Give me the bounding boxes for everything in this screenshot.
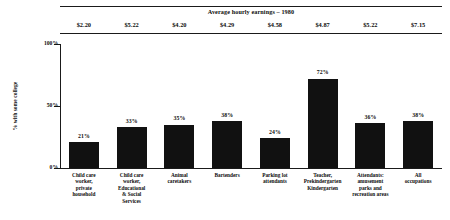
category-label-line: recreation areas <box>348 191 394 197</box>
category-label-line: household <box>61 191 107 197</box>
earnings-value: $5.22 <box>347 19 395 31</box>
category-label: Child careworker,Educational& SocialServ… <box>108 172 156 218</box>
category-label: Teacher,PrekindergartenKindergarten <box>299 172 347 218</box>
category-label-line: occupations <box>395 178 441 184</box>
category-label: Alloccupations <box>394 172 442 218</box>
category-label: Parking lotattendants <box>251 172 299 218</box>
bar-value-label: 33% <box>126 119 138 125</box>
category-label: Attendants:amusementparks andrecreation … <box>347 172 395 218</box>
category-label: Child careworker,privatehousehold <box>60 172 108 218</box>
earnings-value: $4.20 <box>156 19 204 31</box>
bar-slot: 36% <box>347 44 395 168</box>
bar <box>355 123 385 168</box>
bar <box>260 138 290 168</box>
bar-value-label: 35% <box>174 116 186 122</box>
earnings-value: $5.22 <box>108 19 156 31</box>
earnings-value: $2.20 <box>60 19 108 31</box>
category-label-line: caretakers <box>157 178 203 184</box>
bar-value-label: 21% <box>78 134 90 140</box>
plot-area: 100%50%0% % with some college 21%33%35%3… <box>60 44 442 168</box>
bar <box>403 121 433 168</box>
bar <box>117 127 147 168</box>
x-axis-category-labels: Child careworker,privatehouseholdChild c… <box>60 172 442 218</box>
earnings-header-title: Average hourly earnings – 1980 <box>60 8 442 15</box>
bar <box>308 79 338 168</box>
category-label-line: Prekindergarten <box>300 178 346 184</box>
bar-slot: 21% <box>60 44 108 168</box>
bar-value-label: 72% <box>317 70 329 76</box>
category-label-line: attendants <box>252 178 298 184</box>
earnings-value-row: $2.20$5.22$4.20$4.29$4.58$4.87$5.22$7.15 <box>60 19 442 31</box>
earnings-value: $4.58 <box>251 19 299 31</box>
earnings-header-band: Average hourly earnings – 1980 $2.20$5.2… <box>60 6 442 34</box>
earnings-value: $4.29 <box>203 19 251 31</box>
bar-slot: 35% <box>156 44 204 168</box>
bar-slot: 38% <box>394 44 442 168</box>
bar-value-label: 38% <box>412 113 424 119</box>
category-label: Animalcaretakers <box>156 172 204 218</box>
y-axis-tick-label: 100% <box>44 41 58 47</box>
chart-page: Average hourly earnings – 1980 $2.20$5.2… <box>0 0 450 220</box>
y-axis-tick-label: 50% <box>47 103 58 109</box>
category-label-line: Kindergarten <box>300 185 346 191</box>
bar-value-label: 36% <box>365 115 377 121</box>
bar <box>212 121 242 168</box>
earnings-value: $7.15 <box>394 19 442 31</box>
bar-value-label: 24% <box>269 130 281 136</box>
y-axis-tick-label: 0% <box>50 165 58 171</box>
bar-slot: 38% <box>203 44 251 168</box>
earnings-value: $4.87 <box>299 19 347 31</box>
category-label-line: Bartenders <box>204 172 250 178</box>
category-label-line: Services <box>109 198 155 204</box>
bar-slot: 72% <box>299 44 347 168</box>
bar <box>69 142 99 168</box>
y-axis-label: % with some college <box>12 82 18 131</box>
category-label: Bartenders <box>203 172 251 218</box>
bar-slot: 24% <box>251 44 299 168</box>
bar-value-label: 38% <box>221 113 233 119</box>
bar-slot: 33% <box>108 44 156 168</box>
bar-series: 21%33%35%38%24%72%36%38% <box>60 44 442 168</box>
bar <box>164 125 194 168</box>
